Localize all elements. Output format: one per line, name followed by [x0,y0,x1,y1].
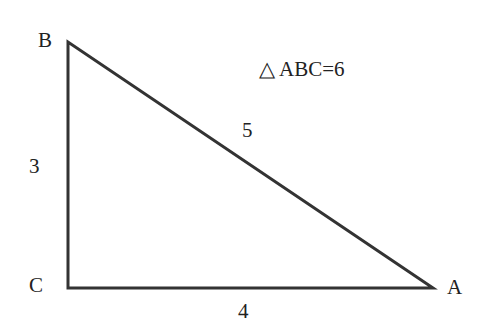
triangle-symbol-icon: △ [259,57,275,81]
side-ca-length: 4 [238,301,249,322]
triangle-figure [0,0,496,336]
vertex-b-label: B [38,30,52,51]
area-annotation: △ ABC=6 [259,59,345,80]
triangle-abc [68,42,433,288]
vertex-a-label: A [447,277,462,298]
vertex-c-label: C [29,275,43,296]
side-bc-length: 3 [29,156,40,177]
side-ab-length: 5 [242,120,253,141]
area-text: ABC=6 [279,57,345,81]
